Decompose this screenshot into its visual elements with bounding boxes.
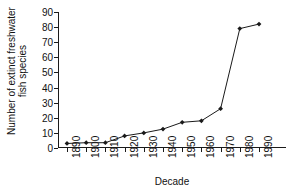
- x-tick-mark: [86, 148, 87, 152]
- y-tick-mark: [54, 148, 58, 149]
- series-markers: [65, 22, 262, 146]
- x-tick-mark: [105, 148, 106, 152]
- data-point-marker: [103, 140, 108, 145]
- data-series: [58, 12, 286, 148]
- y-tick-label: 0: [47, 143, 53, 154]
- y-tick-label: 70: [42, 37, 53, 48]
- y-tick-label: 80: [42, 22, 53, 33]
- plot-area: 0102030405060708090 18901900191019201930…: [58, 12, 286, 148]
- x-tick-mark: [240, 148, 241, 152]
- data-point-marker: [84, 140, 89, 145]
- y-tick-label: 60: [42, 52, 53, 63]
- data-point-marker: [122, 134, 127, 139]
- data-point-marker: [161, 127, 166, 132]
- y-tick-label: 50: [42, 67, 53, 78]
- x-tick-mark: [201, 148, 202, 152]
- x-tick-mark: [144, 148, 145, 152]
- y-tick-label: 10: [42, 127, 53, 138]
- y-tick-label: 30: [42, 97, 53, 108]
- data-point-marker: [257, 22, 262, 27]
- y-tick-label: 20: [42, 112, 53, 123]
- data-point-marker: [180, 120, 185, 125]
- x-tick-mark: [259, 148, 260, 152]
- data-point-marker: [141, 130, 146, 135]
- data-point-marker: [199, 118, 204, 123]
- series-line: [67, 24, 259, 143]
- x-tick-mark: [67, 148, 68, 152]
- data-point-marker: [65, 141, 70, 146]
- y-axis-title-line-1: Number of extinct freshwater: [6, 0, 17, 144]
- y-tick-label: 90: [42, 7, 53, 18]
- x-axis-title: Decade: [58, 176, 286, 187]
- y-axis-title-line-2: fish species: [17, 0, 28, 144]
- x-tick-mark: [182, 148, 183, 152]
- x-tick-mark: [125, 148, 126, 152]
- x-tick-mark: [163, 148, 164, 152]
- x-tick-mark: [221, 148, 222, 152]
- y-axis-title: Number of extinct freshwater fish specie…: [6, 0, 28, 144]
- y-tick-label: 40: [42, 82, 53, 93]
- chart-figure: Number of extinct freshwater fish specie…: [0, 0, 299, 194]
- data-point-marker: [237, 26, 242, 31]
- data-point-marker: [218, 106, 223, 111]
